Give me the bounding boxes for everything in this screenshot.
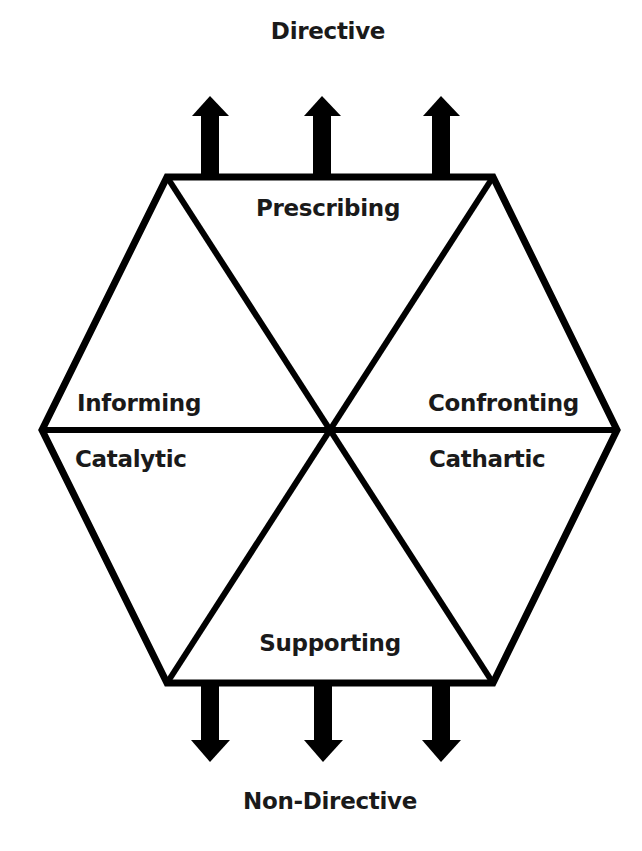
segment-label-confronting: Confronting bbox=[428, 390, 579, 416]
segment-label-prescribing: Prescribing bbox=[256, 195, 400, 221]
segment-label-informing: Informing bbox=[77, 390, 201, 416]
six-category-intervention-diagram: Directive Prescribing Informing Confront… bbox=[0, 0, 642, 851]
arrow-down-icon bbox=[304, 684, 343, 762]
arrow-up-icon bbox=[423, 96, 460, 174]
title-non-directive: Non-Directive bbox=[243, 788, 417, 814]
arrow-up-icon bbox=[192, 96, 229, 174]
segment-label-catalytic: Catalytic bbox=[75, 446, 187, 472]
hexagon-graphic bbox=[0, 0, 642, 851]
top-arrows bbox=[192, 96, 460, 174]
segment-label-supporting: Supporting bbox=[259, 630, 401, 656]
bottom-arrows bbox=[191, 684, 461, 762]
arrow-down-icon bbox=[191, 684, 230, 762]
arrow-down-icon bbox=[422, 684, 461, 762]
title-directive: Directive bbox=[271, 18, 385, 44]
segment-label-cathartic: Cathartic bbox=[429, 446, 545, 472]
arrow-up-icon bbox=[304, 96, 341, 174]
